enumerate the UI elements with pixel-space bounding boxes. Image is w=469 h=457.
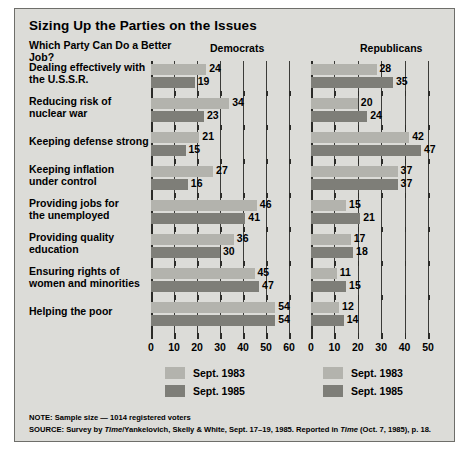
legend-swatch-sept-1983 [323,367,343,379]
inner-tick [243,227,245,232]
bar [311,200,346,211]
bar [311,315,344,326]
bar [151,111,204,122]
bar [151,200,257,211]
category-label: Reducing risk ofnuclear war [29,96,153,119]
inner-tick [174,261,176,266]
bar [311,132,409,143]
inner-tick [197,295,199,300]
inner-tick [197,125,199,130]
plot-area-republicans: 28352024424737371521171811151214 [311,61,428,333]
inner-tick [174,193,176,198]
bar [311,281,346,292]
inner-tick [428,193,430,198]
inner-tick [197,193,199,198]
inner-tick [243,125,245,130]
bar-value-label: 47 [424,143,436,155]
bar-value-label: 45 [258,266,270,278]
axis-tick [311,333,313,339]
category-label: Dealing effectively withthe U.S.S.R. [29,62,153,85]
inner-tick [289,91,291,96]
bar-value-label: 34 [232,96,244,108]
source-label: SOURCE: [29,425,64,434]
axis-tick-label: 60 [283,341,295,353]
bar-value-label: 21 [363,211,375,223]
axis-tick-label: 10 [168,341,180,353]
chart-card: Sizing Up the Parties on the Issues Whic… [14,8,455,442]
bar-value-label: 36 [237,232,249,244]
inner-tick [174,159,176,164]
bar-value-label: 17 [354,232,366,244]
inner-tick [334,159,336,164]
inner-tick [289,125,291,130]
inner-tick [405,91,407,96]
legend-swatch-sept-1985 [165,385,185,397]
inner-tick [428,295,430,300]
inner-tick [266,91,268,96]
bar-value-label: 15 [189,143,201,155]
bar-group: 2115 [151,129,290,163]
inner-tick [428,91,430,96]
inner-tick [266,227,268,232]
inner-tick [334,125,336,130]
legend-label-sept-1985: Sept. 1985 [193,385,245,397]
bar [151,179,188,190]
inner-tick [381,193,383,198]
inner-tick [266,295,268,300]
bar-value-label: 19 [198,75,210,87]
x-axis-labels-republicans: 01020304050 [311,341,428,354]
inner-tick [381,159,383,164]
bar [151,145,186,156]
axis-tick [405,333,407,339]
inner-tick [428,227,430,232]
note-sample-size: NOTE: Sample size — 1014 registered vote… [29,413,444,423]
inner-tick [381,227,383,232]
bar-value-label: 41 [248,211,260,223]
bar [151,166,213,177]
axis-tick-label: 30 [375,341,387,353]
axis-tick [381,333,383,339]
note-text: Sample size — 1014 registered voters [53,413,191,422]
inner-tick [405,261,407,266]
bar-value-label: 27 [216,164,228,176]
axis-tick-label: 20 [352,341,364,353]
axis-tick [243,333,245,339]
inner-tick [266,193,268,198]
bar [311,166,398,177]
inner-tick [405,227,407,232]
bar-group: 3423 [151,95,290,129]
bar [311,111,367,122]
bar-value-label: 20 [361,96,373,108]
category-label: Providing qualityeducation [29,232,153,255]
axis-tick [197,333,199,339]
category-label: Helping the poor [29,306,153,318]
inner-tick [220,261,222,266]
bar-group: 1521 [311,197,428,231]
bar [311,302,339,313]
inner-tick [381,295,383,300]
axis-tick [151,333,153,339]
axis-tick-label: 0 [148,341,154,353]
bar-value-label: 21 [202,130,214,142]
inner-tick [174,227,176,232]
bar-group: 4247 [311,129,428,163]
axis-tick [174,333,176,339]
axis-tick-label: 40 [237,341,249,353]
axis-tick-label: 10 [329,341,341,353]
inner-tick [358,91,360,96]
legend-label-sept-1985: Sept. 1985 [351,385,403,397]
inner-tick [197,159,199,164]
bar-value-label: 54 [278,313,290,325]
bar [151,77,195,88]
inner-tick [220,159,222,164]
bar-group: 1115 [311,265,428,299]
inner-tick [174,91,176,96]
bar [151,98,229,109]
inner-tick [220,227,222,232]
inner-tick [405,295,407,300]
bar-group: 1214 [311,299,428,333]
inner-tick [405,125,407,130]
note-label: NOTE: [29,413,53,422]
axis-tick [358,333,360,339]
inner-tick [334,227,336,232]
